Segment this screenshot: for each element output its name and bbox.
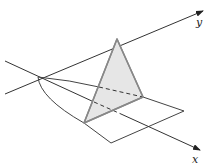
region-upper-curve xyxy=(38,77,99,87)
x-axis xyxy=(121,114,200,150)
y-axis-label: y xyxy=(195,16,203,29)
region-parabola-curve xyxy=(38,77,84,123)
x-axis-label: x xyxy=(192,153,199,165)
solid-cross-section-diagram: y x xyxy=(0,0,208,165)
x-axis-front xyxy=(5,61,94,102)
